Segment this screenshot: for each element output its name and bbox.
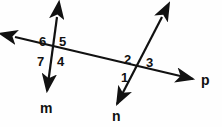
angle-label-1: 1 <box>121 71 128 84</box>
angle-label-6: 6 <box>39 35 46 48</box>
line-label-n: n <box>112 109 121 123</box>
angle-label-3: 3 <box>146 56 153 69</box>
figure-canvas <box>0 0 222 127</box>
angle-label-5: 5 <box>59 35 66 48</box>
angle-label-7: 7 <box>37 55 44 68</box>
angle-label-2: 2 <box>124 53 131 66</box>
line-m <box>47 17 57 91</box>
angle-label-4: 4 <box>57 55 64 68</box>
line-label-p: p <box>201 73 210 87</box>
line-label-m: m <box>40 101 52 115</box>
geometry-figure: 1 2 3 4 5 6 7 m n p <box>0 0 222 127</box>
